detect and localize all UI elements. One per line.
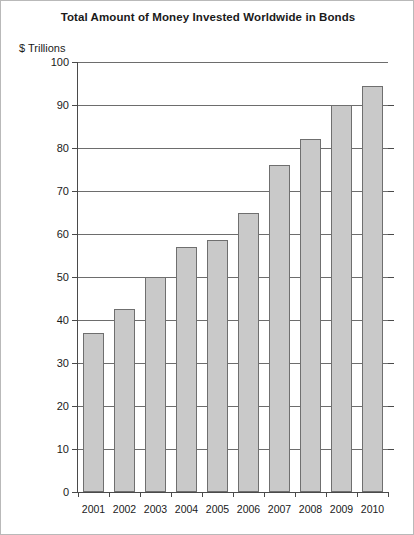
y-axis-tick [72,363,78,364]
chart-title: Total Amount of Money Invested Worldwide… [1,11,414,23]
y-axis-tick [72,449,78,450]
y-axis-tick-right [388,406,394,407]
x-axis-tick [233,492,234,497]
y-axis-tick-label: 40 [57,314,69,326]
x-axis-tick-label: 2006 [237,503,260,515]
y-axis-tick [72,148,78,149]
y-axis-tick [72,234,78,235]
bar-2001 [83,333,104,492]
y-axis-tick-label: 70 [57,185,69,197]
plot-area: 0102030405060708090100 20012002200320042… [78,62,388,492]
bar-2010 [362,86,383,492]
y-axis-tick-right [388,105,394,106]
chart-figure: Total Amount of Money Invested Worldwide… [0,0,414,535]
x-axis-tick-label: 2003 [144,503,167,515]
x-axis-tick [326,492,327,497]
y-axis-tick [72,320,78,321]
y-axis-tick-label: 20 [57,400,69,412]
y-axis-tick-right [388,363,394,364]
y-axis-tick-label: 30 [57,357,69,369]
x-axis-tick [264,492,265,497]
x-axis-tick [388,492,389,497]
y-axis-tick-right [388,277,394,278]
x-axis-tick-label: 2008 [299,503,322,515]
x-axis-tick-label: 2010 [361,503,384,515]
y-axis-tick-right [388,148,394,149]
x-axis-tick [140,492,141,497]
x-axis-tick-label: 2007 [268,503,291,515]
bar-2006 [238,213,259,493]
x-axis-tick-label: 2002 [113,503,136,515]
y-axis-tick-label: 60 [57,228,69,240]
x-axis-tick [171,492,172,497]
x-axis-tick [357,492,358,497]
y-axis-tick-label: 80 [57,142,69,154]
x-axis-tick-label: 2009 [330,503,353,515]
bar-2005 [207,240,228,492]
y-axis-tick [72,277,78,278]
y-axis-label: $ Trillions [19,42,65,54]
bar-2007 [269,165,290,492]
x-axis-tick-label: 2005 [206,503,229,515]
y-axis-tick-label: 0 [63,486,69,498]
y-axis-tick [72,105,78,106]
gridline [78,62,388,63]
y-axis-tick [72,191,78,192]
y-axis-tick-label: 90 [57,99,69,111]
y-axis-tick [72,62,78,63]
bar-2003 [145,277,166,492]
x-axis-tick [78,492,79,497]
x-axis-tick [109,492,110,497]
bar-2004 [176,247,197,492]
y-axis-tick-right [388,234,394,235]
bar-2009 [331,105,352,492]
y-axis-tick-label: 50 [57,271,69,283]
x-axis-tick-label: 2004 [175,503,198,515]
x-axis-tick [202,492,203,497]
x-axis-tick-label: 2001 [82,503,105,515]
bar-2002 [114,309,135,492]
bar-2008 [300,139,321,492]
y-axis-tick-label: 100 [51,56,69,68]
x-axis-tick [295,492,296,497]
y-axis-tick-right [388,449,394,450]
y-axis-tick-label: 10 [57,443,69,455]
y-axis-tick [72,406,78,407]
y-axis-tick-right [388,191,394,192]
y-axis-tick-right [388,320,394,321]
